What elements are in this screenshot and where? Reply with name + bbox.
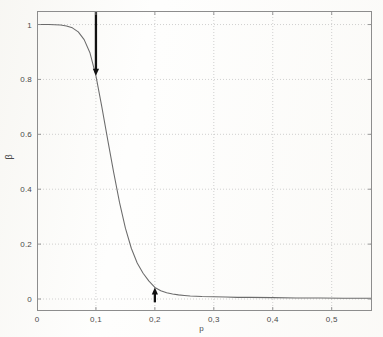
axis-frame: [38, 12, 372, 311]
y-tick-label: 0.8: [20, 75, 32, 84]
x-axis-label-text: p: [199, 324, 203, 333]
x-axis-label: p: [0, 324, 383, 333]
y-tick-label: 0.2: [20, 240, 32, 249]
tick-marks: [37, 11, 372, 311]
y-tick-label: 0.4: [20, 185, 32, 194]
x-tick-label: 0,2: [149, 315, 161, 324]
y-tick-label: 0: [27, 295, 32, 304]
x-tick-label: 0,4: [267, 315, 279, 324]
y-tick-label: 1: [27, 20, 32, 29]
x-tick-label: 0,1: [90, 315, 102, 324]
plot-area: 00,10,20,30,40,500.20.40.60.81: [37, 11, 372, 311]
figure-canvas: 00,10,20,30,40,500.20.40.60.81 β p: [0, 0, 383, 337]
x-tick-label: 0,3: [208, 315, 220, 324]
plot-svg: [37, 11, 372, 311]
arrow-head: [93, 69, 99, 76]
grid-lines: [37, 11, 372, 311]
y-axis-label: β: [4, 154, 14, 159]
y-tick-label: 0.6: [20, 130, 32, 139]
up-arrow-annotation: [152, 287, 158, 302]
x-tick-label: 0: [35, 315, 40, 324]
data-series-line: [37, 25, 372, 299]
x-tick-label: 0,5: [326, 315, 338, 324]
